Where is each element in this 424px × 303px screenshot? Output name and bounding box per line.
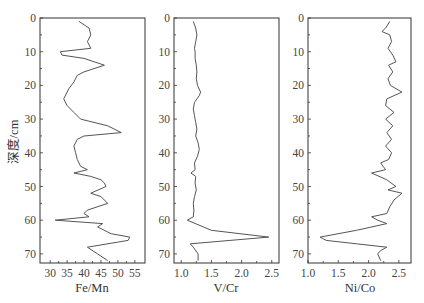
x-tick-label: 1.5 — [204, 267, 219, 279]
plot-frame — [174, 18, 279, 263]
x-tick-label: 2.5 — [392, 267, 407, 279]
y-tick-label: 0 — [30, 12, 36, 24]
x-tick-label: 1.0 — [301, 267, 316, 279]
y-tick-label: 0 — [298, 12, 304, 24]
y-tick-label: 20 — [25, 79, 37, 91]
x-tick-label: 1.0 — [174, 267, 189, 279]
x-axis-label-v-cr: V/Cr — [214, 281, 240, 295]
y-tick-label: 50 — [293, 181, 305, 193]
y-tick-label: 70 — [293, 248, 305, 260]
x-tick-label: 50 — [112, 267, 124, 279]
x-tick-label: 2.0 — [361, 267, 376, 279]
y-tick-label: 60 — [159, 214, 171, 226]
y-tick-label: 30 — [25, 113, 37, 125]
plot-frame — [40, 18, 145, 263]
x-tick-label: 2.5 — [265, 267, 280, 279]
panel-fe-mn: 010203040506070303540455055 — [25, 12, 146, 279]
x-tick-label: 2.0 — [234, 267, 249, 279]
y-tick-label: 10 — [293, 46, 305, 58]
y-tick-label: 10 — [159, 46, 171, 58]
y-tick-label: 30 — [293, 113, 305, 125]
profile-curve — [187, 21, 268, 260]
y-axis-label: 深度/cm — [1, 112, 23, 172]
y-axis-label-text: 深度/cm — [3, 120, 22, 165]
x-tick-label: 1.5 — [331, 267, 346, 279]
depth-profile-chart: 010203040506070303540455055 010203040506… — [0, 0, 424, 303]
y-tick-label: 0 — [164, 12, 170, 24]
y-tick-label: 60 — [25, 214, 37, 226]
y-tick-label: 60 — [293, 214, 305, 226]
y-tick-label: 50 — [159, 181, 171, 193]
x-axis-label-fe-mn: Fe/Mn — [75, 281, 109, 295]
x-tick-label: 35 — [61, 267, 73, 279]
x-tick-label: 55 — [129, 267, 141, 279]
y-tick-label: 40 — [25, 147, 37, 159]
y-tick-label: 20 — [293, 79, 305, 91]
y-tick-label: 20 — [159, 79, 171, 91]
profile-curve — [320, 21, 402, 260]
y-tick-label: 40 — [159, 147, 171, 159]
plot-frame — [308, 18, 411, 263]
y-tick-label: 70 — [25, 248, 37, 260]
x-tick-label: 40 — [78, 267, 90, 279]
y-tick-label: 10 — [25, 46, 37, 58]
y-tick-label: 70 — [159, 248, 171, 260]
x-tick-label: 30 — [44, 267, 56, 279]
profile-curve — [55, 21, 130, 260]
panel-ni-co: 0102030405060701.01.52.02.5 — [293, 12, 412, 279]
y-tick-label: 40 — [293, 147, 305, 159]
panel-v-cr: 0102030405060701.01.52.02.5 — [159, 12, 280, 279]
x-tick-label: 45 — [95, 267, 107, 279]
y-tick-label: 50 — [25, 181, 37, 193]
y-tick-label: 30 — [159, 113, 171, 125]
x-axis-label-ni-co: Ni/Co — [345, 281, 376, 295]
